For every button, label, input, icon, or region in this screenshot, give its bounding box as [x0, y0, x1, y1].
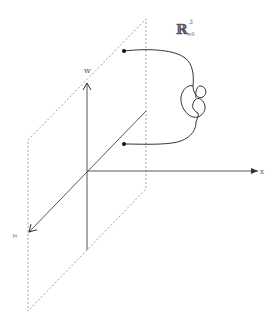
- z-axis-label: z: [11, 234, 19, 238]
- space-label: ℝ 3 ≥0: [176, 18, 194, 37]
- knotted-arc: [122, 49, 206, 146]
- arc-endpoint-bottom: [122, 142, 126, 146]
- w-axis-label: w: [84, 66, 91, 75]
- arc-endpoint-top: [122, 49, 126, 53]
- space-label-subscript: ≥0: [187, 31, 194, 37]
- space-label-superscript: 3: [189, 18, 193, 25]
- z-axis: [29, 111, 146, 232]
- x-axis-label: x: [260, 168, 264, 176]
- diagram-canvas: w x z ℝ 3 ≥0: [0, 0, 278, 329]
